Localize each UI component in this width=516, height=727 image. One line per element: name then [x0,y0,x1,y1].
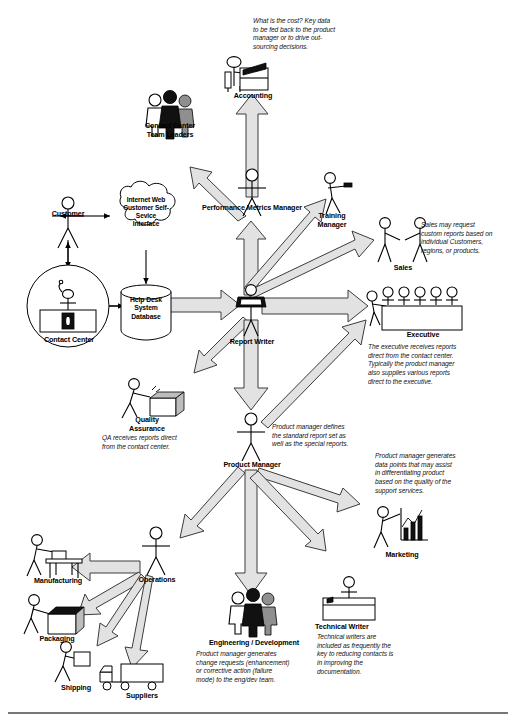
note-engineering: Product manager generates change request… [196,650,320,685]
node-label-customer: Customer [34,210,102,219]
sales-icon [378,218,427,262]
node-label-product-manager: Product Manager [205,461,299,470]
node-label-marketing: Marketing [371,551,433,560]
packaging-icon [24,595,84,634]
node-label-contact-center-team-leaders: Contact Center Team Leaders [122,122,218,140]
training-manager-icon [325,173,352,214]
node-label-packaging: Packaging [25,635,89,644]
node-label-training-manager: Training Manager [304,212,360,230]
marketing-icon [374,507,428,548]
note-executive: The executive receives reports direct fr… [368,343,490,387]
technical-writer-icon [323,577,375,620]
node-label-sales: Sales [375,264,431,273]
note-technical-writer: Technical writers are included as freque… [317,633,409,677]
operations-icon [142,527,170,575]
node-label-shipping: Shipping [46,684,106,693]
node-label-quality-assurance: Quality Assurance [112,416,182,434]
product-manager-icon [237,413,265,461]
node-label-executive: Executive [392,331,454,340]
arrow-helpdesk-to-reportwriter [168,290,240,320]
quality-assurance-icon [122,379,184,418]
node-label-contact-center: Contact Center [26,336,112,345]
node-label-performance-metrics-manager: Performance Metrics Manager [181,204,323,213]
node-label-operations: Operations [126,576,188,585]
note-accounting: What is the cost? Key data to be fed bac… [253,17,361,52]
shipping-icon [55,642,90,682]
arrow-to-contact-center-team-leaders [190,167,246,221]
note-product-manager: Product manager defines the standard rep… [272,423,384,449]
node-label-suppliers: Suppliers [111,692,173,701]
manufacturing-icon [27,535,82,578]
node-label-report-writer: Report Writer [205,338,299,347]
arrow-productmanager-to-operations [180,467,245,538]
suppliers-icon [100,664,163,690]
arrow-productmanager-to-executive [261,320,366,428]
node-label-technical-writer: Technical Writer [315,623,395,632]
node-label-helpdesk-db: Help Desk System Database [115,296,177,321]
node-label-engineering: Engineering / Development [186,639,322,648]
note-marketing: Product manager generates data points th… [375,452,485,496]
node-label-accounting: Accounting [205,92,301,101]
executive-icon [367,287,462,330]
note-sales: Sales may request custom reports based o… [421,221,516,256]
node-label-web-self-service: Internet Web Customer Self- Sevice Inter… [112,196,180,228]
engineering-development-icon [229,588,277,637]
note-quality-assurance: QA receives reports direct from the cont… [102,434,210,451]
node-label-manufacturing: Manufacturing [20,577,96,586]
arrow-reportwriter-to-executive [262,290,368,322]
accounting-icon [225,57,268,92]
